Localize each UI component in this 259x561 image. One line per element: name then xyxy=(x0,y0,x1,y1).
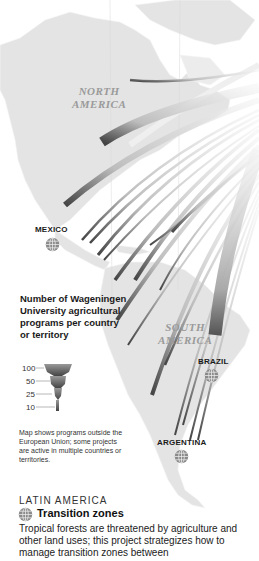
globe-icon[interactable] xyxy=(204,368,219,383)
region-label-line: SOUTH xyxy=(158,321,212,334)
globe-icon xyxy=(18,507,33,522)
legend-note: Map shows programs outside the European … xyxy=(19,428,124,464)
country-label-brazil: BRAZIL xyxy=(198,357,229,366)
legend-scale-graphic xyxy=(36,362,76,414)
country-label-argentina: ARGENTINA xyxy=(157,438,206,447)
globe-icon[interactable] xyxy=(45,237,60,252)
project-title: Transition zones xyxy=(37,507,124,519)
project-region-heading: LATIN AMERICA xyxy=(19,495,107,506)
country-label-mexico: MEXICO xyxy=(35,225,68,234)
legend-value-100: 100 xyxy=(22,364,35,373)
legend-value-25: 25 xyxy=(26,390,35,399)
region-label-south-america: SOUTH AMERICA xyxy=(158,321,212,347)
legend-title: Number of Wageningen University agricult… xyxy=(20,293,130,341)
project-description: Tropical forests are threatened by agric… xyxy=(19,523,259,559)
globe-icon[interactable] xyxy=(174,449,189,464)
region-label-north-america: NORTH AMERICA xyxy=(72,85,126,111)
legend-value-10: 10 xyxy=(26,403,35,412)
region-label-line: NORTH xyxy=(72,85,126,98)
legend-value-50: 50 xyxy=(26,377,35,386)
map-canvas xyxy=(0,0,259,561)
region-label-line: AMERICA xyxy=(158,334,212,347)
region-label-line: AMERICA xyxy=(72,98,126,111)
